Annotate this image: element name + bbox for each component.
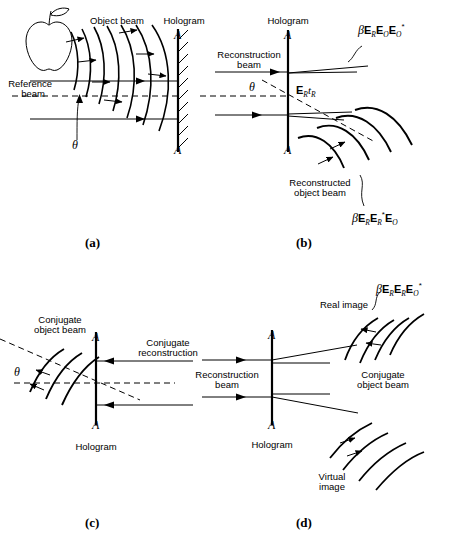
equation-b-bottom: βERER*EO [352, 210, 398, 227]
label-hologram-a: Hologram [148, 16, 220, 27]
real-image-wavefronts-d [345, 314, 424, 363]
conjugate-wavefronts-c [30, 349, 99, 405]
label-hologram-c: Hologram [60, 442, 132, 453]
equation-b-top: βEREOEO* [358, 22, 405, 39]
equation-d-top: βEREREO* [376, 281, 422, 298]
reconstructed-wavefronts-b [298, 108, 412, 168]
panel-label-b: (b) [296, 235, 312, 251]
reconstruction-arrow-d-upper [236, 357, 246, 364]
label-real-image-d: Real image [308, 300, 380, 311]
apple-body-icon [26, 22, 72, 70]
transmittance-label-b: ERtR [296, 84, 316, 99]
theta-label-a: θ [72, 138, 78, 153]
plate-top-label-a: A [174, 28, 181, 43]
diffracted-line-d-3 [272, 397, 358, 413]
reconstruction-arrow-d-lower [236, 394, 246, 401]
conjugate-recon-arrow-c-lower [104, 402, 114, 409]
angle-dashed-b [262, 80, 375, 142]
beam-arrow-a-upper [136, 78, 145, 85]
plate-bottom-label-b: A [284, 143, 291, 158]
theta-label-b: θ [249, 80, 255, 95]
label-object-beam-a: Object beam [77, 16, 157, 27]
diffracted-line-b-4 [288, 116, 344, 120]
label-reference-beam-a-line2: beam [0, 89, 45, 100]
label-hologram-b: Hologram [252, 16, 324, 27]
label-reconstructed-b-line2: object beam [277, 188, 363, 199]
theta-label-c: θ [14, 365, 20, 380]
plate-bottom-label-d: A [268, 418, 275, 433]
apple-leaf-icon [51, 8, 69, 16]
label-hologram-d: Hologram [236, 440, 308, 451]
plate-top-label-d: A [268, 328, 275, 343]
figure-canvas [0, 0, 464, 545]
panel-label-a: (a) [85, 235, 100, 251]
diffracted-line-d-1 [272, 345, 357, 360]
plate-bottom-label-a: A [174, 143, 181, 158]
object-wavefronts [71, 25, 168, 131]
plate-top-label-b: A [284, 28, 291, 43]
label-reconstruction-beam-b-line2: beam [209, 60, 289, 71]
panel-label-d: (d) [296, 515, 312, 531]
reconstruction-arrow-b-lower [252, 112, 262, 119]
plate-bottom-label-c: A [92, 418, 99, 433]
apple-stem-icon [49, 11, 51, 25]
label-virtual-image-d-line2: image [300, 482, 364, 493]
hologram-hatching-a [178, 30, 188, 148]
label-conjugate-object-c-line2: object beam [20, 325, 100, 336]
panel-d-graphics [202, 292, 424, 490]
panel-label-c: (c) [85, 515, 99, 531]
label-conjugate-recon-c-line2: reconstruction [120, 348, 216, 359]
holography-figure: Object beam Hologram A A Reference beam … [0, 0, 464, 545]
theta-arrow-a [76, 94, 83, 103]
conjugate-recon-arrow-c-upper [104, 358, 114, 365]
label-conjugate-object-d-line2: object beam [342, 380, 424, 391]
diffracted-line-b-3 [288, 112, 352, 114]
plate-top-label-c: A [92, 330, 99, 345]
leader-b-top [348, 46, 362, 62]
label-reconstruction-beam-d-line2: beam [185, 380, 269, 391]
